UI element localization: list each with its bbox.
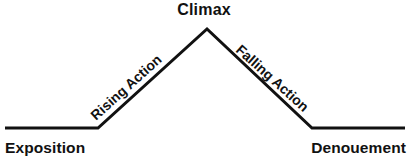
label-climax: Climax <box>0 2 408 18</box>
plot-structure-diagram: Climax Rising Action Falling Action Expo… <box>0 0 408 161</box>
plot-arc-line <box>5 29 405 128</box>
label-exposition: Exposition <box>5 140 85 156</box>
plot-arc-graphic <box>0 0 408 161</box>
label-denouement: Denouement <box>311 140 406 156</box>
